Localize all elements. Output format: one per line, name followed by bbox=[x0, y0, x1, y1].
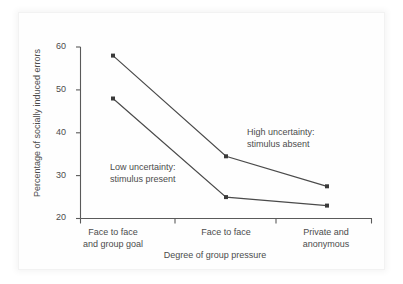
x-category-label-0-line2: and group goal bbox=[73, 238, 153, 250]
data-point-low-1 bbox=[224, 195, 228, 199]
annotation-high-uncertainty-line2: stimulus absent bbox=[247, 139, 315, 151]
x-category-label-0-line1: Face to face bbox=[73, 226, 153, 238]
annotation-low-uncertainty-line1: Low uncertainty: bbox=[110, 162, 176, 174]
data-point-low-0 bbox=[111, 97, 115, 101]
data-point-high-1 bbox=[224, 154, 228, 158]
x-category-label-1: Face to face bbox=[186, 226, 266, 238]
y-tick-label-40: 40 bbox=[56, 127, 66, 137]
annotation-high-uncertainty-line1: High uncertainty: bbox=[247, 127, 315, 139]
data-point-high-0 bbox=[111, 54, 115, 58]
y-tick-label-30: 30 bbox=[56, 170, 66, 180]
figure-container: 60 50 40 30 20 Percentage of socially in… bbox=[0, 0, 403, 284]
x-category-label-2-line1: Private and bbox=[284, 226, 368, 238]
y-axis-title: Percentage of socially induced errors bbox=[32, 38, 42, 208]
series-line-low-uncertainty bbox=[113, 99, 327, 206]
annotation-low-uncertainty: Low uncertainty: stimulus present bbox=[110, 162, 176, 185]
annotation-high-uncertainty: High uncertainty: stimulus absent bbox=[247, 127, 315, 150]
x-category-label-2: Private and anonymous bbox=[284, 226, 368, 250]
x-category-label-2-line2: anonymous bbox=[284, 238, 368, 250]
data-point-high-2 bbox=[325, 184, 329, 188]
y-tick-label-50: 50 bbox=[56, 84, 66, 94]
data-point-low-2 bbox=[325, 204, 329, 208]
x-category-label-0: Face to face and group goal bbox=[73, 226, 153, 250]
y-tick-label-20: 20 bbox=[56, 212, 66, 222]
x-category-label-1-line1: Face to face bbox=[186, 226, 266, 238]
annotation-low-uncertainty-line2: stimulus present bbox=[110, 174, 176, 186]
x-axis-title: Degree of group pressure bbox=[120, 250, 310, 260]
y-tick-label-60: 60 bbox=[56, 41, 66, 51]
